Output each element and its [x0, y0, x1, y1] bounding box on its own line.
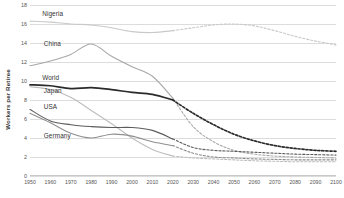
series-lines — [30, 5, 336, 176]
series-label-germany: Germany — [44, 132, 71, 139]
x-tick-label-1970: 1970 — [65, 179, 77, 185]
series-label-china: China — [44, 40, 61, 47]
x-tick-label-1960: 1960 — [45, 179, 57, 185]
line-nigeria-historical — [30, 21, 173, 32]
series-label-world: World — [42, 74, 59, 81]
x-tick-label-2060: 2060 — [249, 179, 261, 185]
x-tick-label-2070: 2070 — [269, 179, 281, 185]
y-tick-label-12: 12 — [21, 59, 27, 65]
x-tick-label-1990: 1990 — [106, 179, 118, 185]
y-tick-label-14: 14 — [21, 40, 27, 46]
y-tick-label-0: 0 — [24, 173, 27, 179]
line-world-projected — [173, 100, 336, 151]
y-tick-label-4: 4 — [24, 135, 27, 141]
x-tick-label-2010: 2010 — [147, 179, 159, 185]
y-tick-label-6: 6 — [24, 116, 27, 122]
line-germany-historical — [30, 113, 173, 145]
x-tick-label-2020: 2020 — [167, 179, 179, 185]
x-tick-label-2000: 2000 — [126, 179, 138, 185]
x-tick-label-2040: 2040 — [208, 179, 220, 185]
x-tick-label-2030: 2030 — [187, 179, 199, 185]
workers-per-retiree-chart: Workers per Retiree 024681012141618 1950… — [0, 0, 344, 198]
series-label-usa: USA — [44, 103, 57, 110]
y-tick-label-8: 8 — [24, 97, 27, 103]
gridline-y-0 — [30, 176, 336, 177]
line-nigeria-projected — [173, 24, 336, 45]
x-tick-label-2050: 2050 — [228, 179, 240, 185]
series-label-nigeria: Nigeria — [42, 10, 63, 17]
x-tick-label-2080: 2080 — [289, 179, 301, 185]
series-label-japan: Japan — [44, 87, 62, 94]
y-axis-title: Workers per Retiree — [0, 0, 15, 198]
y-tick-label-16: 16 — [21, 21, 27, 27]
y-tick-label-10: 10 — [21, 78, 27, 84]
x-tick-label-1980: 1980 — [85, 179, 97, 185]
x-tick-label-2100: 2100 — [330, 179, 342, 185]
x-tick-label-1950: 1950 — [24, 179, 36, 185]
x-tick-label-2090: 2090 — [310, 179, 322, 185]
plot-area: 024681012141618 195019601970198019902000… — [30, 5, 336, 176]
y-tick-label-18: 18 — [21, 2, 27, 8]
y-tick-label-2: 2 — [24, 154, 27, 160]
